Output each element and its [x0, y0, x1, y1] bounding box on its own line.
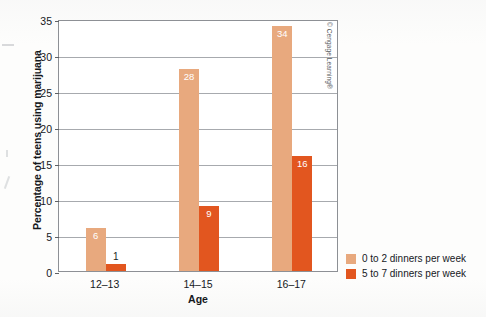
y-axis-tick-mark — [55, 165, 59, 166]
bar[interactable]: 28 — [179, 69, 199, 271]
y-axis-tick-label: 25 — [40, 87, 52, 99]
y-axis-tick-label: 35 — [40, 15, 52, 27]
chart-legend: 0 to 2 dinners per week 5 to 7 dinners p… — [346, 251, 466, 281]
legend-item-label: 5 to 7 dinners per week — [362, 268, 466, 279]
y-axis-tick-label: 20 — [40, 123, 52, 135]
bar[interactable]: 34 — [272, 26, 292, 271]
y-axis-tick-mark — [55, 57, 59, 58]
y-axis-tick-mark — [55, 237, 59, 238]
scan-artifact-tick — [6, 150, 8, 157]
bar[interactable]: 1 — [106, 264, 126, 271]
y-axis-tick-mark — [55, 93, 59, 94]
legend-item[interactable]: 5 to 7 dinners per week — [346, 266, 466, 281]
x-axis-tick-label: 12–13 — [90, 278, 119, 290]
bar-value-label: 34 — [272, 28, 292, 39]
y-axis-tick-label: 30 — [40, 51, 52, 63]
x-axis-tick-label: 14–15 — [183, 278, 212, 290]
legend-swatch-icon — [346, 254, 356, 264]
scan-artifact-slash — [4, 176, 10, 189]
bar-value-label: 16 — [292, 158, 312, 169]
bar[interactable]: 16 — [292, 156, 312, 271]
y-axis-tick-mark — [55, 273, 59, 274]
plot-area: 05101520253035612893416 — [58, 20, 338, 272]
y-axis-tick-mark — [55, 129, 59, 130]
bar[interactable]: 6 — [86, 228, 106, 271]
bar-group: 61 — [86, 21, 126, 271]
bar-value-label: 9 — [199, 208, 219, 219]
legend-item-label: 0 to 2 dinners per week — [362, 253, 466, 264]
copyright-notice: © Cengage Learning® — [326, 22, 333, 89]
y-axis-tick-label: 15 — [40, 159, 52, 171]
bar-group: 289 — [179, 21, 219, 271]
scan-artifact-dash — [2, 44, 14, 46]
bar-value-label: 1 — [106, 251, 126, 262]
bar-group: 3416 — [272, 21, 312, 271]
legend-item[interactable]: 0 to 2 dinners per week — [346, 251, 466, 266]
y-axis-tick-label: 0 — [46, 267, 52, 279]
x-axis-label: Age — [58, 293, 338, 305]
chart-figure: Percentage of teens using marijuana 0510… — [0, 0, 486, 317]
y-axis-tick-mark — [55, 21, 59, 22]
legend-swatch-icon — [346, 269, 356, 279]
x-axis-tick-label: 16–17 — [277, 278, 306, 290]
y-axis-tick-label: 5 — [46, 231, 52, 243]
bar[interactable]: 9 — [199, 206, 219, 271]
y-axis-tick-mark — [55, 201, 59, 202]
y-axis-tick-label: 10 — [40, 195, 52, 207]
bar-value-label: 6 — [86, 230, 106, 241]
bar-value-label: 28 — [179, 71, 199, 82]
